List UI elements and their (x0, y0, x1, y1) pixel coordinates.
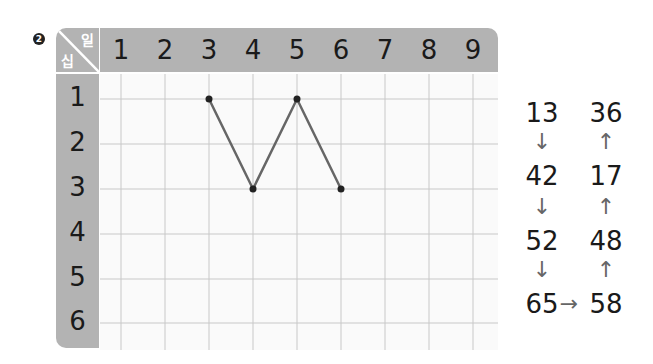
sequence-number: 58 (584, 289, 628, 319)
sequence-number: 13 (520, 98, 564, 128)
column-header-bar: 1 2 3 4 5 6 7 8 9 (100, 28, 498, 72)
up-arrow-icon: ↑ (584, 131, 628, 153)
down-arrow-icon: ↓ (520, 259, 564, 281)
column-label: 7 (370, 28, 400, 72)
path-point-36 (338, 186, 345, 193)
problem-number-badge: 2 (33, 33, 45, 45)
sequence-number: 36 (584, 98, 628, 128)
down-arrow-icon: ↓ (520, 196, 564, 218)
row-label: 5 (56, 262, 99, 292)
column-label: 2 (150, 28, 180, 72)
column-label: 6 (326, 28, 356, 72)
up-arrow-icon: ↑ (584, 259, 628, 281)
column-label: 8 (414, 28, 444, 72)
sequence-number: 52 (520, 226, 564, 256)
sequence-number: 42 (520, 161, 564, 191)
row-label: 6 (56, 306, 99, 336)
path-point-34 (250, 186, 257, 193)
corner-header-cell: 일 십 (56, 28, 99, 72)
column-label: 9 (458, 28, 488, 72)
path-point-13 (206, 96, 213, 103)
up-arrow-icon: ↑ (584, 196, 628, 218)
row-header-column: 1 2 3 4 5 6 (56, 74, 99, 348)
column-label: 1 (106, 28, 136, 72)
column-label: 3 (194, 28, 224, 72)
sequence-number: 48 (584, 226, 628, 256)
row-label: 1 (56, 82, 99, 112)
ones-axis-label: 일 (81, 29, 94, 49)
tens-axis-label: 십 (61, 50, 74, 70)
down-arrow-icon: ↓ (520, 131, 564, 153)
number-grid (100, 74, 498, 350)
row-label: 3 (56, 172, 99, 202)
column-label: 5 (282, 28, 312, 72)
right-arrow-icon: → (554, 293, 584, 315)
column-label: 4 (238, 28, 268, 72)
grid-lines-and-path (100, 74, 498, 350)
sequence-number: 17 (584, 161, 628, 191)
path-point-15 (294, 96, 301, 103)
row-label: 4 (56, 217, 99, 247)
row-label: 2 (56, 127, 99, 157)
